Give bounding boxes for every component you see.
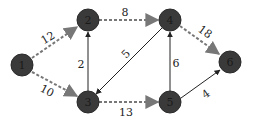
node-4: 4 (159, 9, 181, 31)
edge-label-3-5: 13 (119, 106, 133, 119)
node-label: 1 (19, 59, 26, 72)
node-2: 2 (77, 9, 99, 31)
node-5: 5 (159, 91, 181, 113)
edge-label-3-2: 2 (78, 58, 85, 71)
edge-label-5-6: 4 (199, 87, 212, 102)
edge-label-1-2: 12 (39, 29, 58, 47)
edge-label-5-4: 6 (173, 57, 180, 70)
node-label: 3 (85, 96, 92, 109)
node-6: 6 (219, 51, 241, 73)
node-label: 4 (167, 14, 174, 27)
edge-label-2-4: 8 (122, 6, 129, 19)
node-label: 5 (167, 96, 174, 109)
node-label: 2 (85, 14, 92, 27)
node-3: 3 (77, 91, 99, 113)
node-label: 6 (227, 56, 234, 69)
edge-1-2 (32, 27, 77, 58)
node-1: 1 (11, 54, 33, 76)
graph-diagram: 12 10 8 2 5 13 18 6 4 1 2 (0, 0, 257, 124)
edge-4-3 (96, 28, 162, 94)
edges: 12 10 8 2 5 13 18 6 4 (32, 6, 220, 119)
edge-label-1-3: 10 (38, 82, 56, 100)
